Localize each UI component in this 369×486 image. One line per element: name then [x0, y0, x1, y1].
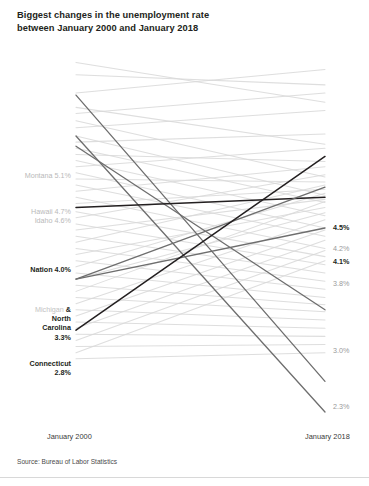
- background-slope-line: [76, 93, 325, 113]
- background-slope-lines: [76, 62, 325, 358]
- left-label-connecticut-value: 2.8%: [0, 369, 71, 378]
- right-label-r-23: 2.3%: [333, 403, 349, 412]
- right-label-r-45: 4.5%: [333, 224, 349, 233]
- bottom-divider: [0, 477, 369, 478]
- axis-label-right: January 2018: [305, 432, 350, 441]
- right-label-r-30: 3.0%: [333, 347, 349, 356]
- left-label-montana: Montana 5.1%: [0, 172, 71, 181]
- background-slope-line: [76, 136, 325, 195]
- background-slope-line: [76, 334, 325, 336]
- background-slope-line: [76, 236, 325, 273]
- background-slope-line: [76, 70, 325, 94]
- source-note: Source: Bureau of Labor Statistics: [17, 458, 117, 465]
- left-label-nation: Nation 4.0%: [0, 266, 71, 275]
- background-slope-line: [76, 148, 325, 202]
- background-slope-line: [76, 75, 325, 85]
- michigan-label: Michigan: [35, 305, 64, 314]
- highlight-slope-line-nation: [76, 197, 325, 207]
- slope-chart: Biggest changes in the unemployment rate…: [0, 0, 369, 486]
- background-slope-line: [76, 345, 325, 347]
- left-label-idaho: Idaho 4.6%: [0, 217, 71, 226]
- axis-label-left: January 2000: [47, 432, 92, 441]
- right-label-r-42: 4.2%: [333, 245, 349, 254]
- right-label-r-41: 4.1%: [333, 258, 349, 267]
- background-slope-line: [76, 353, 325, 359]
- ampersand: &: [66, 305, 71, 314]
- michigan-nc-value: 3.3%: [11, 333, 71, 342]
- slope-lines-svg: [0, 0, 369, 486]
- michigan-north-carolina-label: Michigan & North Carolina 3.3%: [11, 305, 71, 342]
- right-label-r-38: 3.8%: [333, 280, 349, 289]
- north-label: North: [11, 314, 71, 323]
- background-slope-line: [76, 220, 325, 304]
- carolina-label: Carolina: [11, 323, 71, 332]
- background-slope-line: [76, 148, 325, 166]
